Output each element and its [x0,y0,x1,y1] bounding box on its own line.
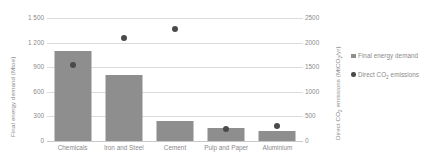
y-axis-right-title-sub2: 2 [338,56,343,59]
legend-item-direct-co2-emissions[interactable]: Direct CO2 emissions [351,71,437,82]
chart-container: Final energy demand (Mtoe) Direct CO2 em… [0,0,438,166]
dot-chemicals[interactable] [70,62,76,68]
x-axis-category-labels: ChemicalsIron and SteelCementPulp and Pa… [47,145,303,159]
y-axis-right-tick-label: 1000 [305,89,335,95]
legend-label-final-energy-demand: Final energy demand [358,52,418,60]
y-axis-right-tick-label: 500 [305,113,335,119]
x-axis-label-chemicals: Chemicals [47,145,98,151]
x-axis-label-pulp-and-paper: Pulp and Paper [201,145,252,151]
gridline [47,141,303,142]
dot-aluminium[interactable] [274,123,280,129]
dot-pulp-and-paper[interactable] [223,126,229,132]
y-axis-right-title: Direct CO2 emissions (MtCO2/yr) [334,46,343,140]
y-axis-right-tick-label: 1500 [305,64,335,70]
y-axis-left-tick-label: 1 200 [14,40,44,46]
legend-label-post: emissions [389,71,419,78]
y-axis-right-title-mid: emissions (MtCO [334,58,341,109]
plot-area [47,18,303,141]
y-axis-right-title-post: /yr) [334,46,341,55]
y-axis-left-tick-label: 900 [14,64,44,70]
y-axis-left-tick-label: 300 [14,113,44,119]
chart-legend: Final energy demand Direct CO2 emissions [351,52,437,92]
y-axis-right-tick-label: 0 [305,138,335,144]
y-axis-right-tick-label: 2000 [305,40,335,46]
x-axis-label-aluminium: Aluminium [252,145,303,151]
y-axis-right-title-sub1: 2 [338,109,343,112]
legend-item-final-energy-demand[interactable]: Final energy demand [351,52,437,60]
y-axis-right-tick-label: 2500 [305,15,335,21]
y-axis-left-tick-label: 600 [14,89,44,95]
y-axis-left-tick-label: 0 [14,138,44,144]
y-axis-right-title-pre: Direct CO [334,112,341,140]
y-axis-right-ticks: 05001000150020002500 [305,0,335,166]
x-axis-label-cement: Cement [149,145,200,151]
dot-cement[interactable] [172,26,178,32]
y-axis-left-ticks: 03006009001 2001 500 [14,0,44,166]
scatter-series-direct-co2-emissions [47,18,303,141]
legend-label-pre: Direct CO [358,71,386,78]
legend-square-marker-icon [351,54,356,59]
x-axis-label-iron-and-steel: Iron and Steel [98,145,149,151]
y-axis-left-tick-label: 1 500 [14,15,44,21]
legend-circle-marker-icon [351,72,356,77]
dot-iron-and-steel[interactable] [121,35,127,41]
legend-label-direct-co2-emissions: Direct CO2 emissions [358,71,419,82]
